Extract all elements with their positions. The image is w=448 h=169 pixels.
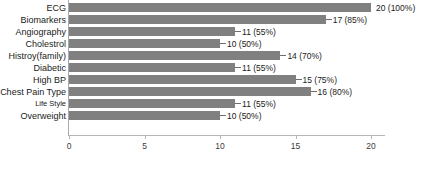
bar-value-label: 10 (50%): [227, 110, 262, 122]
category-label: Biomarkers: [20, 14, 66, 26]
bar: [69, 51, 280, 60]
bar-row: High BP15 (75%): [0, 74, 448, 86]
x-tick: [69, 135, 70, 139]
leader-line: [220, 43, 226, 44]
bar-row: Histroy(family)14 (70%): [0, 50, 448, 62]
bar-value-label: 10 (50%): [227, 38, 262, 50]
bar: [69, 3, 371, 12]
category-label: High BP: [33, 74, 66, 86]
x-tick: [220, 135, 221, 139]
x-tick: [371, 135, 372, 139]
x-tick-label: 5: [142, 141, 147, 151]
bar-value-label: 11 (55%): [242, 26, 276, 38]
horizontal-bar-chart: ECG20 (100%)Biomarkers17 (85%)Angiograph…: [0, 0, 448, 169]
bar-row: Biomarkers17 (85%): [0, 14, 448, 26]
bar: [69, 63, 235, 72]
bar-row: Life Style11 (55%): [0, 98, 448, 110]
x-tick-label: 20: [366, 141, 375, 151]
bar-row: Diabetic11 (55%): [0, 62, 448, 74]
leader-line: [296, 79, 302, 80]
category-label: Life Style: [35, 98, 66, 110]
leader-line: [280, 55, 286, 56]
x-tick-label: 10: [215, 141, 224, 151]
category-label: Chest Pain Type: [0, 86, 66, 98]
leader-line: [235, 31, 241, 32]
bar-value-label: 11 (55%): [242, 62, 276, 74]
bar: [69, 87, 311, 96]
bar: [69, 27, 235, 36]
plot-area: ECG20 (100%)Biomarkers17 (85%)Angiograph…: [0, 0, 448, 135]
leader-line: [220, 115, 226, 116]
x-axis-line: [68, 135, 385, 136]
x-tick: [145, 135, 146, 139]
bar-value-label: 20 (100%): [376, 2, 415, 14]
bar-row: Chest Pain Type16 (80%): [0, 86, 448, 98]
bar: [69, 111, 220, 120]
leader-line: [326, 19, 332, 20]
x-tick-label: 0: [67, 141, 72, 151]
x-tick: [296, 135, 297, 139]
bar-row: Angiography11 (55%): [0, 26, 448, 38]
category-label: Overweight: [20, 110, 66, 122]
bar-row: ECG20 (100%): [0, 2, 448, 14]
leader-line: [235, 67, 241, 68]
bar: [69, 39, 220, 48]
category-label: Diabetic: [33, 62, 66, 74]
leader-line: [311, 91, 317, 92]
bar-value-label: 14 (70%): [287, 50, 322, 62]
bar-row: Overweight10 (50%): [0, 110, 448, 122]
bar: [69, 15, 326, 24]
bar-value-label: 17 (85%): [333, 14, 368, 26]
bar-value-label: 11 (55%): [242, 98, 276, 110]
bar: [69, 75, 296, 84]
category-label: ECG: [46, 2, 66, 14]
category-label: Angiography: [15, 26, 66, 38]
category-label: Cholestrol: [25, 38, 66, 50]
x-tick-label: 15: [291, 141, 300, 151]
x-axis: 05101520: [0, 135, 448, 169]
category-label: Histroy(family): [9, 50, 67, 62]
bar: [69, 99, 235, 108]
bar-value-label: 16 (80%): [318, 86, 353, 98]
bar-value-label: 15 (75%): [303, 74, 338, 86]
bar-row: Cholestrol10 (50%): [0, 38, 448, 50]
leader-line: [235, 103, 241, 104]
